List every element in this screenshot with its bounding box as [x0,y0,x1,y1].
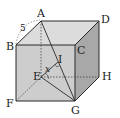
vertex-label-G: G [71,104,80,117]
angle-label-x: x [45,64,50,74]
cube-diagram: A B C D E F G H I 5 x [0,0,120,118]
vertex-label-F: F [6,97,14,110]
vertex-label-C: C [77,44,85,57]
vertex-label-E: E [33,70,41,83]
edge-length-label: 5 [20,23,26,33]
vertex-label-B: B [6,40,14,53]
vertex-label-A: A [36,7,46,20]
vertex-label-D: D [101,13,110,26]
point-label-I: I [58,53,62,66]
vertex-label-H: H [102,70,112,83]
